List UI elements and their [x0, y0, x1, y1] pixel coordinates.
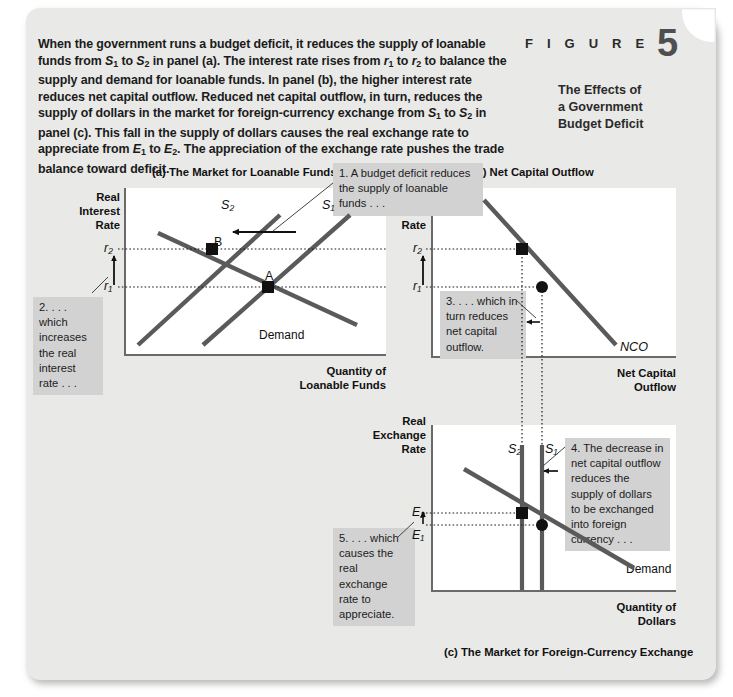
panel-c-tick-label-e1: E₁	[412, 528, 424, 542]
panel-a-y-label-line1: Real	[40, 190, 120, 204]
figure-word-label: F I G U R E	[525, 36, 649, 51]
panel-a-point-label-b: B	[214, 235, 222, 249]
panel-a-x-label-line2: Loanable Funds	[256, 378, 386, 392]
note-4-decrease-in-nco: 4. The decrease in net capital outflow r…	[565, 438, 670, 551]
panel-c-y-label-line1: Real	[340, 414, 426, 428]
figure-page: When the government runs a budget defici…	[0, 0, 733, 697]
figure-number: 5	[657, 24, 678, 62]
panel-a-y-label-line2: Interest	[40, 204, 120, 218]
panel-c-tick-label-e2: E₂	[412, 505, 425, 519]
figure-title: The Effects of a Government Budget Defic…	[558, 82, 698, 133]
note-5-exchange-rate-appreciates: 5. . . . which causes the real exchange …	[333, 528, 415, 626]
panel-c-curve-label-s1: S₁	[545, 442, 557, 456]
panel-a-curve-label-demand: Demand	[259, 328, 304, 342]
panel-a-tick-label-r1: r₁	[104, 279, 112, 293]
panel-b-x-label-line2: Outflow	[560, 380, 676, 394]
panel-c-x-label-line1: Quantity of	[566, 600, 676, 614]
panel-c-title: (c) The Market for Foreign-Currency Exch…	[444, 646, 693, 658]
panel-b-y-label-line3: Rate	[348, 218, 426, 232]
panel-b-tick-label-r2: r₂	[413, 241, 422, 255]
panel-a-x-axis-label: Quantity of Loanable Funds	[256, 364, 386, 392]
panel-b-title: (b) Net Capital Outflow	[472, 166, 594, 178]
note-2-increases-interest-rate: 2. . . . which increases the real intere…	[33, 297, 103, 395]
panel-a-tick-label-r2: r₂	[104, 241, 113, 255]
figure-title-line2: a Government	[558, 99, 698, 116]
figure-title-line1: The Effects of	[558, 82, 698, 99]
panel-a-point-label-a: A	[265, 269, 273, 283]
panel-b-x-label-line1: Net Capital	[560, 366, 676, 380]
panel-c-y-axis-label: Real Exchange Rate	[340, 414, 426, 456]
note-1-budget-deficit: 1. A budget deficit reduces the supply o…	[333, 163, 483, 216]
figure-title-line3: Budget Deficit	[558, 116, 698, 133]
panel-c-y-label-line2: Exchange	[340, 428, 426, 442]
note-3-reduces-net-capital-outflow: 3. . . . which in turn reduces net capit…	[440, 291, 526, 359]
figure-intro-paragraph: When the government runs a budget defici…	[38, 36, 514, 178]
panel-c-curve-label-demand: Demand	[626, 562, 671, 576]
panel-a-y-label-line3: Rate	[40, 218, 120, 232]
panel-c-x-axis-label: Quantity of Dollars	[566, 600, 676, 628]
panel-a-title: (a) The Market for Loanable Funds	[152, 166, 337, 178]
panel-a-curve-label-s1: S₁	[322, 198, 334, 212]
page-corner-fold	[682, 8, 716, 42]
panel-b-x-axis-label: Net Capital Outflow	[560, 366, 676, 394]
panel-a-y-axis-label: Real Interest Rate	[40, 190, 120, 232]
panel-a-curve-label-s2: S₂	[221, 198, 234, 212]
panel-c-x-label-line2: Dollars	[566, 614, 676, 628]
panel-b-curve-label-nco: NCO	[620, 340, 648, 354]
panel-a-x-label-line1: Quantity of	[256, 364, 386, 378]
panel-b-tick-label-r1: r₁	[413, 279, 421, 293]
panel-c-curve-label-s2: S₂	[508, 442, 521, 456]
panel-c-y-label-line3: Rate	[340, 442, 426, 456]
